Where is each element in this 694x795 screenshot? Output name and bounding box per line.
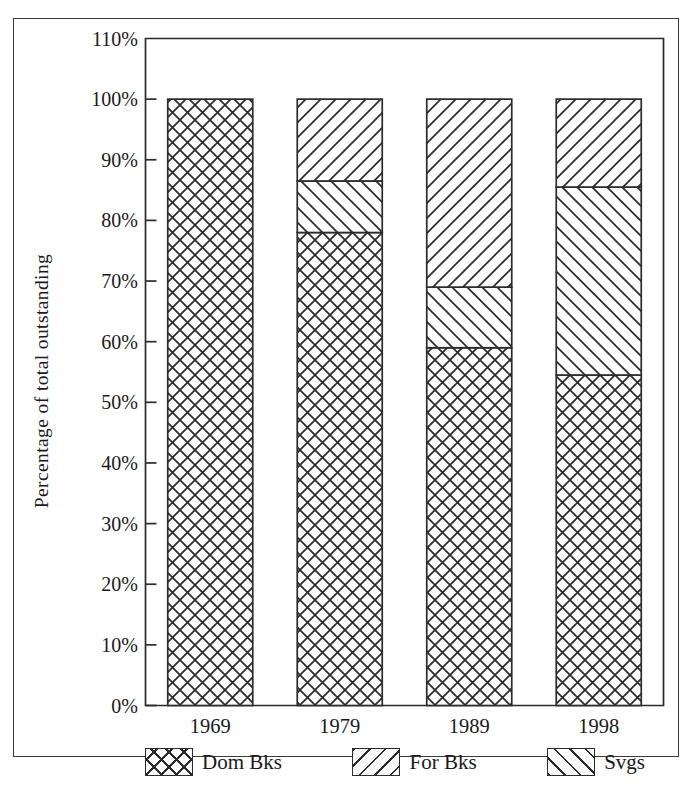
bar-segment-svgs[interactable] xyxy=(556,99,641,187)
bar-segment-for-bks[interactable] xyxy=(556,187,641,375)
bar-group xyxy=(168,99,253,705)
y-axis-tick-label: 10% xyxy=(52,635,138,655)
legend-entry[interactable]: Dom Bks xyxy=(145,748,282,776)
bar-segment-svgs[interactable] xyxy=(297,99,382,181)
x-axis-tick-label: 1969 xyxy=(190,715,231,738)
y-axis-tick-label: 0% xyxy=(52,696,138,716)
backslash-hatch-swatch xyxy=(352,748,400,776)
y-axis-tick-label: 80% xyxy=(52,210,138,230)
bar-segment-for-bks[interactable] xyxy=(297,181,382,233)
bar-segment-dom-bks[interactable] xyxy=(168,99,253,705)
y-axis-tick-label: 30% xyxy=(52,514,138,534)
y-axis-tick-label: 20% xyxy=(52,574,138,594)
y-axis-title: Percentage of total outstanding xyxy=(31,171,53,591)
x-axis-tick-label: 1998 xyxy=(578,715,619,738)
y-axis-tick-label: 70% xyxy=(52,271,138,291)
legend-label: Svgs xyxy=(604,750,645,775)
crosshatch-swatch xyxy=(145,748,193,776)
legend-entry[interactable]: For Bks xyxy=(352,748,476,776)
bar-group xyxy=(556,99,641,705)
y-axis-tick-label: 100% xyxy=(52,89,138,109)
y-axis-tick-label: 90% xyxy=(52,150,138,170)
stacked-bar-chart: Percentage of total outstanding 0%10%20%… xyxy=(0,0,694,795)
legend-label: For Bks xyxy=(409,750,476,775)
x-axis-tick-label: 1979 xyxy=(319,715,360,738)
chart-legend: Dom BksFor BksSvgs xyxy=(145,742,645,782)
bar-segment-dom-bks[interactable] xyxy=(556,375,641,705)
y-axis-tick-labels: 0%10%20%30%40%50%60%70%80%90%100%110% xyxy=(52,0,138,795)
legend-entry[interactable]: Svgs xyxy=(547,748,645,776)
bar-group xyxy=(297,99,382,705)
legend-label: Dom Bks xyxy=(202,750,282,775)
bar-segment-svgs[interactable] xyxy=(427,99,512,287)
y-axis-tick-label: 110% xyxy=(52,29,138,49)
x-axis-tick-label: 1989 xyxy=(449,715,490,738)
y-axis-tick-label: 40% xyxy=(52,453,138,473)
y-axis-tick-label: 60% xyxy=(52,332,138,352)
bar-segment-for-bks[interactable] xyxy=(427,287,512,348)
bar-segment-dom-bks[interactable] xyxy=(427,348,512,706)
bar-segment-dom-bks[interactable] xyxy=(297,233,382,706)
slash-hatch-swatch xyxy=(547,748,595,776)
bar-group xyxy=(427,99,512,705)
y-axis-tick-label: 50% xyxy=(52,392,138,412)
